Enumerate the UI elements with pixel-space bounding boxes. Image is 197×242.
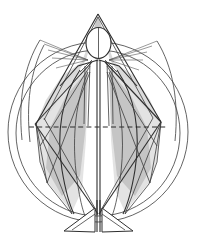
right-foot — [102, 208, 133, 232]
construction-circles — [8, 42, 188, 222]
torso-vertical-lines — [84, 60, 113, 215]
proportion-diagram — [0, 0, 197, 242]
head-group — [86, 28, 111, 59]
outer-circle — [8, 42, 188, 222]
torso-left-vertical — [88, 62, 90, 126]
figure-canvas — [0, 0, 197, 242]
left-foot — [64, 208, 95, 232]
arm-line-r3 — [109, 52, 147, 60]
torso-right-vertical — [107, 62, 109, 126]
